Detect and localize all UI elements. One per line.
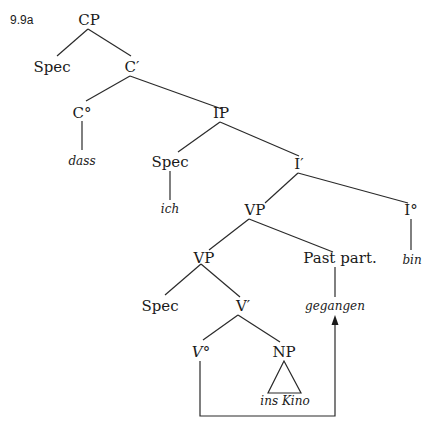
edge-vbar-vhead (203, 315, 238, 340)
node-c-bar: C′ (125, 58, 140, 76)
arrowhead-icon (332, 315, 339, 325)
node-i-head: I° (404, 201, 417, 219)
tree-edges (57, 29, 411, 393)
edge-vbar-np (238, 315, 280, 342)
tree-nodes: CP Spec C′ C° IP dass Spec I′ ich VP I° … (33, 11, 421, 408)
edge-ip-spec (178, 122, 220, 152)
node-spec-ip: Spec (151, 153, 188, 171)
node-cp: CP (78, 11, 100, 29)
edge-cp-spec (57, 29, 88, 56)
word-dass: dass (68, 154, 95, 168)
node-v-head: V° (192, 343, 210, 361)
node-past-part: Past part. (303, 249, 376, 267)
node-vp-lower: VP (193, 249, 215, 267)
edge-ibar-vp (265, 173, 298, 203)
figure-number: 9.9a (10, 13, 34, 27)
edge-ibar-ihead (298, 173, 408, 203)
edge-cp-cbar (88, 29, 131, 56)
node-i-bar: I′ (294, 155, 304, 173)
node-vp-upper: VP (244, 201, 266, 219)
edge-cbar-chead (86, 76, 130, 101)
node-v-bar: V′ (235, 297, 251, 315)
edge-vp-vbar (201, 264, 240, 297)
np-triangle (268, 361, 301, 393)
node-c-head: C° (73, 104, 92, 122)
node-np: NP (272, 343, 295, 361)
word-ins-kino: ins Kino (260, 394, 309, 408)
word-bin: bin (402, 253, 421, 267)
edge-cbar-ip (130, 76, 222, 109)
word-gegangen: gegangen (305, 299, 365, 313)
node-ip: IP (213, 104, 229, 122)
edge-vp-pastpart (249, 219, 333, 252)
word-ich: ich (161, 202, 179, 216)
edge-ip-ibar (220, 122, 299, 156)
syntax-tree: 9.9a (0, 0, 431, 432)
edge-vp-vp (209, 219, 249, 250)
node-spec-vp: Spec (141, 297, 178, 315)
edge-vp-spec (165, 264, 201, 295)
node-spec-cp: Spec (33, 58, 70, 76)
